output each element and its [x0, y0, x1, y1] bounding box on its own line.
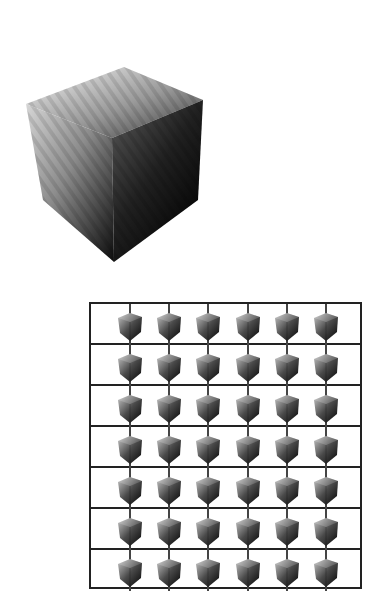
grid-cell-cube — [154, 427, 184, 468]
grid-cell-cube — [272, 386, 302, 427]
grid-cell-cube — [154, 509, 184, 550]
grid-row — [91, 509, 360, 550]
grid-cell-cube — [233, 386, 263, 427]
grid-cell-cube — [154, 550, 184, 591]
grid-cell-cube — [193, 550, 223, 591]
grid-cell-cube — [193, 468, 223, 509]
grid-cell-cube — [233, 550, 263, 591]
grid-cell-cube — [233, 427, 263, 468]
grid-cell-cube — [311, 509, 341, 550]
grid-cell-cube — [311, 427, 341, 468]
cube-grid-frame — [89, 302, 362, 589]
grid-row — [91, 550, 360, 591]
grid-cell-cube — [311, 468, 341, 509]
grid-cell-cube — [193, 386, 223, 427]
grid-cell-cube — [311, 304, 341, 345]
grid-cell-cube — [154, 304, 184, 345]
grid-row — [91, 468, 360, 509]
grid-cell-cube — [311, 386, 341, 427]
grid-cell-cube — [154, 345, 184, 386]
grid-cell-cube — [115, 509, 145, 550]
grid-cell-cube — [311, 550, 341, 591]
grid-cell-cube — [193, 509, 223, 550]
grid-cell-cube — [233, 304, 263, 345]
grid-cell-cube — [272, 468, 302, 509]
grid-cell-cube — [272, 304, 302, 345]
grid-cell-cube — [193, 427, 223, 468]
grid-cell-cube — [193, 304, 223, 345]
grid-cell-cube — [115, 427, 145, 468]
grid-row — [91, 386, 360, 427]
grid-cell-cube — [233, 468, 263, 509]
grid-row — [91, 427, 360, 468]
grid-cell-cube — [233, 345, 263, 386]
grid-cell-cube — [272, 550, 302, 591]
grid-cell-cube — [233, 509, 263, 550]
grid-row — [91, 304, 360, 345]
grid-cell-cube — [193, 345, 223, 386]
grid-cell-cube — [272, 345, 302, 386]
grid-cell-cube — [311, 345, 341, 386]
grid-cell-cube — [115, 345, 145, 386]
large-shaded-cube — [0, 0, 388, 300]
grid-cell-cube — [154, 386, 184, 427]
grid-cell-cube — [115, 304, 145, 345]
grid-cell-cube — [115, 550, 145, 591]
grid-cell-cube — [115, 468, 145, 509]
grid-cell-cube — [115, 386, 145, 427]
grid-row — [91, 345, 360, 386]
grid-cell-cube — [154, 468, 184, 509]
grid-cell-cube — [272, 509, 302, 550]
grid-cell-cube — [272, 427, 302, 468]
